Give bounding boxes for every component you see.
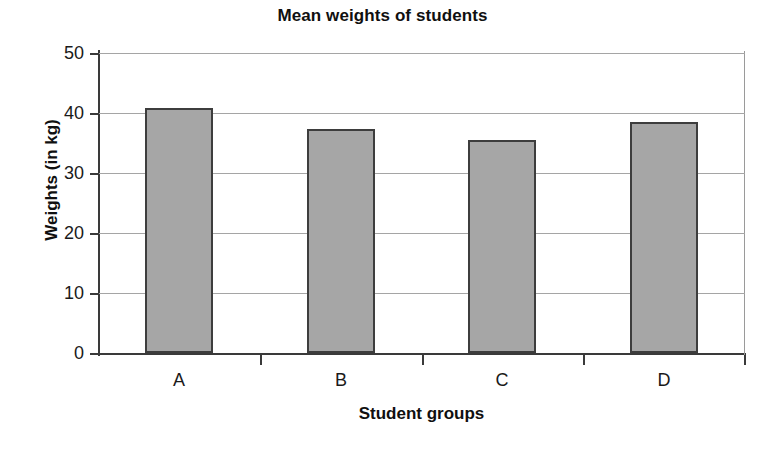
- bar-a: [145, 108, 213, 353]
- y-axis-tick-label: 0: [32, 344, 84, 362]
- x-tick-mark-end: [744, 355, 746, 365]
- x-tick-mark: [260, 355, 262, 365]
- y-axis-line: [98, 50, 100, 356]
- x-axis-tick-label-d: D: [583, 370, 745, 391]
- y-tick-mark-0: [90, 353, 99, 355]
- bar-c: [468, 140, 536, 353]
- x-axis-tick-label-c: C: [421, 370, 583, 391]
- y-axis-tick-label: 50: [32, 44, 84, 62]
- chart-title: Mean weights of students: [0, 6, 765, 26]
- y-tick-mark-10: [90, 293, 99, 295]
- y-tick-mark-30: [90, 173, 99, 175]
- bar-chart-figure: Mean weights of students Weights (in kg)…: [0, 0, 765, 450]
- x-axis-title: Student groups: [98, 404, 745, 424]
- bar-d: [630, 122, 698, 353]
- y-axis-tick-label: 20: [32, 224, 84, 242]
- x-tick-mark: [583, 355, 585, 365]
- x-axis-tick-label-b: B: [260, 370, 422, 391]
- plot-right-edge: [744, 51, 745, 355]
- y-tick-mark-50: [90, 53, 99, 55]
- bar-b: [307, 129, 375, 353]
- y-axis-tick-label: 30: [32, 164, 84, 182]
- y-axis-tick-label: 10: [32, 284, 84, 302]
- gridline-50: [98, 53, 745, 54]
- y-axis-tick-label: 40: [32, 104, 84, 122]
- x-axis-tick-label-a: A: [98, 370, 260, 391]
- y-tick-mark-40: [90, 113, 99, 115]
- x-tick-mark: [422, 355, 424, 365]
- y-tick-mark-20: [90, 233, 99, 235]
